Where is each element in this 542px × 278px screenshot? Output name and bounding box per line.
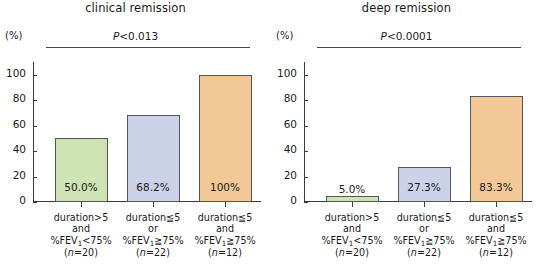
fev-subscript: 1 — [493, 239, 498, 248]
x-label-part: ≦ — [238, 212, 246, 223]
x-label-part: %FEV — [321, 235, 348, 246]
y-tick-mark — [304, 202, 308, 203]
x-label-part: duration — [54, 212, 94, 223]
significance-line — [46, 47, 250, 48]
y-axis-unit-label: (%) — [276, 30, 293, 41]
sample-size-value: =20) — [345, 247, 369, 258]
y-tick-mark — [33, 177, 37, 178]
x-label-part: ≦ — [437, 212, 445, 223]
x-label-line-1: duration≦5 — [180, 212, 270, 223]
x-label-part: duration — [126, 212, 166, 223]
x-label-part: > — [94, 212, 102, 223]
y-tick-label: 0 — [290, 194, 297, 206]
sample-size-value: =22) — [146, 247, 170, 258]
y-tick-mark — [304, 126, 308, 127]
p-value-annotation: P<0.013 — [0, 30, 271, 42]
x-label-part: duration — [198, 212, 238, 223]
sample-size-value: =20) — [74, 247, 98, 258]
y-tick-mark — [304, 177, 308, 178]
cut-off-caption-strip — [0, 271, 542, 278]
x-axis-tick — [424, 202, 425, 207]
y-axis — [33, 62, 34, 202]
bar-value-label: 27.3% — [399, 181, 450, 193]
x-label-part: %FEV — [50, 235, 77, 246]
bar-2[interactable]: 27.3% — [398, 167, 451, 202]
fev-subscript: 1 — [150, 239, 155, 248]
x-label-part: ≦ — [509, 212, 517, 223]
x-axis-tick — [153, 202, 154, 207]
y-tick-label: 0 — [19, 194, 26, 206]
plot-area: 0204060801005.0%27.3%83.3% — [304, 62, 532, 202]
bar-value-label: 83.3% — [471, 181, 522, 193]
x-label-line-3: %FEV1≧75% — [451, 235, 541, 247]
bar-3[interactable]: 100% — [199, 75, 252, 202]
x-label-part: %FEV — [465, 235, 492, 246]
y-tick-mark — [304, 151, 308, 152]
x-axis-category-label: duration≦5and%FEV1≧75%(n=12) — [451, 212, 541, 259]
y-tick-mark — [304, 75, 308, 76]
x-axis-tick — [81, 202, 82, 207]
y-tick-label: 100 — [6, 67, 26, 79]
bar-1[interactable]: 50.0% — [55, 138, 108, 202]
x-label-part: ≦ — [166, 212, 174, 223]
significance-line — [317, 47, 521, 48]
x-label-part: %FEV — [393, 235, 420, 246]
x-label-part: 75% — [234, 235, 255, 246]
x-label-part: 5 — [246, 212, 252, 223]
sample-size-value: =22) — [417, 247, 441, 258]
fev-subscript: 1 — [421, 239, 426, 248]
y-tick-label: 100 — [277, 67, 297, 79]
fev-subscript: 1 — [349, 239, 354, 248]
y-tick-mark — [33, 100, 37, 101]
bar-value-label: 50.0% — [56, 181, 107, 193]
x-label-part: %FEV — [194, 235, 221, 246]
y-tick-label: 20 — [284, 169, 297, 181]
x-label-part: 75% — [505, 235, 526, 246]
y-tick-label: 40 — [13, 143, 26, 155]
y-axis — [304, 62, 305, 202]
bar-value-label: 68.2% — [128, 181, 179, 193]
sample-size-value: =12) — [218, 247, 242, 258]
y-tick-mark — [304, 100, 308, 101]
x-label-part: 5 — [517, 212, 523, 223]
x-label-part: %FEV — [122, 235, 149, 246]
y-tick-label: 60 — [284, 118, 297, 130]
panel-title: deep remission — [271, 1, 542, 15]
x-label-line-1: duration≦5 — [451, 212, 541, 223]
bar-2[interactable]: 68.2% — [127, 115, 180, 202]
x-label-part: duration — [469, 212, 509, 223]
y-tick-label: 40 — [284, 143, 297, 155]
y-tick-mark — [33, 151, 37, 152]
y-tick-label: 80 — [284, 92, 297, 104]
bar-value-label: 5.0% — [327, 183, 378, 195]
bar-3[interactable]: 83.3% — [470, 96, 523, 202]
x-label-part: duration — [397, 212, 437, 223]
chart-panel-deep-remission: deep remissionP<0.0001(%)duration>5and%F… — [271, 0, 542, 278]
plot-area: 02040608010050.0%68.2%100% — [33, 62, 261, 202]
x-axis-tick — [225, 202, 226, 207]
y-axis-unit-label: (%) — [5, 30, 22, 41]
x-label-line-2: and — [451, 223, 541, 234]
fev-subscript: 1 — [78, 239, 83, 248]
x-axis-category-label: duration≦5and%FEV1≧75%(n=12) — [180, 212, 270, 259]
p-value-number: <0.0001 — [387, 30, 433, 42]
figure-two-panel-bar-charts: clinical remissionP<0.013(%)duration>5an… — [0, 0, 542, 278]
x-axis-tick — [352, 202, 353, 207]
chart-panel-clinical-remission: clinical remissionP<0.013(%)duration>5an… — [0, 0, 271, 278]
p-value-number: <0.013 — [119, 30, 158, 42]
bar-value-label: 100% — [200, 181, 251, 193]
x-label-line-2: and — [180, 223, 270, 234]
y-tick-label: 20 — [13, 169, 26, 181]
x-axis-tick — [496, 202, 497, 207]
panel-title: clinical remission — [0, 1, 271, 15]
y-tick-label: 80 — [13, 92, 26, 104]
x-label-line-4: (n=12) — [451, 247, 541, 258]
fev-subscript: 1 — [222, 239, 227, 248]
x-label-part: > — [365, 212, 373, 223]
y-tick-mark — [33, 202, 37, 203]
x-label-part: duration — [325, 212, 365, 223]
y-tick-mark — [33, 75, 37, 76]
y-tick-mark — [33, 126, 37, 127]
x-label-line-3: %FEV1≧75% — [180, 235, 270, 247]
sample-size-value: =12) — [489, 247, 513, 258]
